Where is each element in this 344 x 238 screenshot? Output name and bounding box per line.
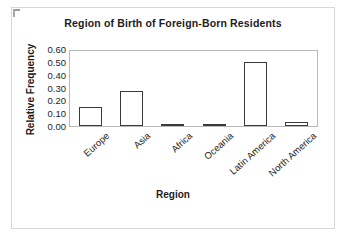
y-tick-label: 0.60: [48, 45, 67, 55]
x-tick-label-text: Asia: [132, 130, 153, 151]
bar-slot: [235, 51, 276, 126]
y-tick-label: 0.50: [48, 58, 67, 68]
bar-asia: [120, 91, 143, 126]
bar-latin-america: [244, 62, 267, 126]
chart-title: Region of Birth of Foreign-Born Resident…: [12, 17, 334, 29]
bar-slot: [152, 51, 193, 126]
bar-africa: [161, 124, 184, 127]
bar-oceania: [203, 124, 226, 126]
y-tick-label: 0.20: [48, 96, 67, 106]
y-axis-tick-labels: 0.600.500.400.300.200.100.00: [32, 44, 66, 133]
plot-area: [69, 50, 318, 127]
bar-slot: [111, 51, 152, 126]
bar-slot: [276, 51, 317, 126]
x-tick-label-text: Europe: [81, 130, 111, 159]
bar-europe: [79, 107, 102, 126]
scan-artifact-mark: [13, 9, 20, 17]
y-tick-label: 0.10: [48, 109, 67, 119]
x-tick-label-text: Africa: [169, 130, 194, 154]
x-tick-label-text: Oceania: [202, 130, 236, 162]
chart-figure: Region of Birth of Foreign-Born Resident…: [11, 7, 335, 229]
bar-series: [70, 51, 317, 126]
x-axis-title: Region: [12, 189, 334, 200]
y-tick-label: 0.00: [48, 122, 67, 132]
y-tick-label: 0.40: [48, 71, 67, 81]
y-tick-label: 0.30: [48, 84, 67, 94]
bar-slot: [70, 51, 111, 126]
bar-slot: [194, 51, 235, 126]
bar-north-america: [285, 122, 308, 126]
x-axis-tick-labels: EuropeAsiaAfricaOceaniaLatin AmericaNort…: [69, 127, 318, 187]
